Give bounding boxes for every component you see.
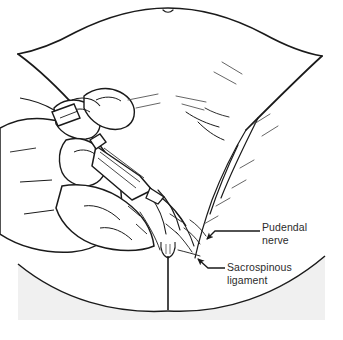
target-region-detail bbox=[166, 214, 206, 256]
label-pudendal-nerve-line1: Pudendal bbox=[262, 221, 307, 234]
label-pudendal-nerve-line2: nerve bbox=[262, 234, 307, 247]
pudendal-nerve-leader bbox=[207, 231, 260, 239]
label-pudendal-nerve: Pudendal nerve bbox=[262, 221, 307, 247]
right-thigh-contours bbox=[186, 108, 258, 258]
gluteal-cleft bbox=[161, 242, 175, 310]
medical-line-drawing bbox=[0, 0, 343, 340]
label-sacrospinous-ligament: Sacrospinous ligament bbox=[227, 261, 292, 287]
pudendal-nerve-block-figure: Pudendal nerve Sacrospinous ligament bbox=[0, 0, 343, 340]
sacrospinous-ligament-leader bbox=[198, 259, 225, 268]
label-sacrospinous-ligament-line1: Sacrospinous bbox=[227, 261, 292, 274]
label-sacrospinous-ligament-line2: ligament bbox=[227, 274, 292, 287]
